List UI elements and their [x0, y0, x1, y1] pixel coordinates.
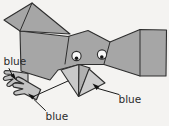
- left-foot-label: blue: [4, 55, 27, 67]
- bird-craft-diagram: blue blue blue: [0, 0, 169, 126]
- beak-leader-line: [98, 89, 119, 95]
- bottom-foot-leader-line: [34, 100, 46, 111]
- right-eye-pupil: [100, 55, 104, 59]
- bottom-foot-label: blue: [46, 110, 69, 122]
- wing-panel: [4, 3, 70, 34]
- beak-label: blue: [119, 93, 142, 105]
- beak-front: [61, 65, 79, 97]
- craft-diagram-canvas: blue blue blue: [0, 0, 169, 126]
- annotation-beak: blue: [93, 84, 142, 106]
- left-eye-pupil: [75, 57, 79, 61]
